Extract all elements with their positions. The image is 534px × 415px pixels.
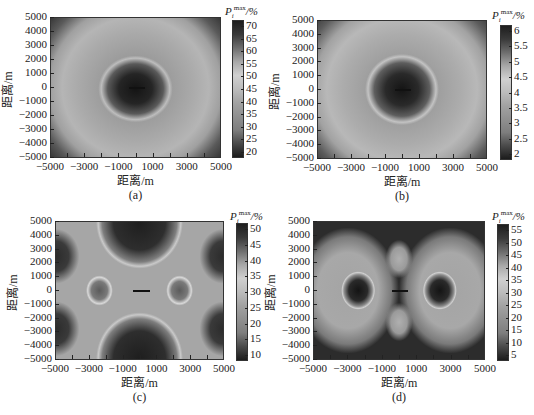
cb-sub: i bbox=[499, 16, 501, 24]
y-tick-mark bbox=[317, 75, 321, 76]
colorbar-tick-label: 60 bbox=[246, 45, 257, 56]
colorbar-tick-mark bbox=[509, 46, 512, 47]
y-axis-label: 距离/m bbox=[269, 73, 281, 110]
colorbar-tick-label: 30 bbox=[246, 121, 257, 132]
x-tick-mark bbox=[419, 154, 420, 158]
colorbar-tick-mark bbox=[506, 243, 509, 244]
colorbar-tick-label: 15 bbox=[511, 324, 522, 335]
colorbar-tick-label: 30 bbox=[511, 287, 522, 298]
colorbar-tick-label: 20 bbox=[250, 318, 261, 329]
x-tick-mark bbox=[153, 153, 154, 157]
colorbar-tick-label: 45 bbox=[250, 239, 261, 250]
colorbar-tick-mark bbox=[506, 318, 509, 319]
colorbar-tick-label: 5.5 bbox=[514, 40, 528, 51]
x-tick-mark bbox=[451, 355, 452, 359]
y-tick-mark bbox=[313, 235, 317, 236]
x-tick-mark bbox=[347, 355, 348, 359]
colorbar-tick-label: 50 bbox=[246, 70, 257, 81]
x-tick-mark bbox=[204, 153, 205, 157]
colorbar-tick-label: 3 bbox=[514, 117, 520, 128]
colorbar-tick-mark bbox=[241, 39, 244, 40]
y-tick-mark bbox=[317, 117, 321, 118]
x-tick-mark bbox=[89, 355, 90, 359]
x-tick-mark bbox=[436, 154, 437, 158]
y-tick-label: −3000 bbox=[8, 325, 52, 336]
y-tick-mark bbox=[50, 115, 54, 116]
y-tick-mark bbox=[317, 144, 321, 145]
colorbar-tick-label: 55 bbox=[511, 224, 522, 235]
x-tick-mark bbox=[72, 355, 73, 359]
colorbar-tick-label: 65 bbox=[246, 33, 257, 44]
x-tick-mark bbox=[402, 154, 403, 158]
colorbar-tick-label: 2 bbox=[514, 148, 520, 159]
y-tick-mark bbox=[55, 304, 59, 305]
y-tick-mark bbox=[50, 45, 54, 46]
colorbar-tick-mark bbox=[245, 324, 248, 325]
y-tick-mark bbox=[317, 89, 321, 90]
y-tick-mark bbox=[50, 129, 54, 130]
x-tick-mark bbox=[334, 154, 335, 158]
colorbar-tick-mark bbox=[506, 330, 509, 331]
colorbar-tick-label: 10 bbox=[511, 337, 522, 348]
x-tick-label: 5000 bbox=[465, 162, 509, 173]
x-tick-mark bbox=[140, 355, 141, 359]
y-tick-mark bbox=[50, 73, 54, 74]
y-tick-label: 5000 bbox=[8, 215, 52, 226]
source-marker bbox=[392, 290, 408, 292]
colorbar-tick-mark bbox=[506, 230, 509, 231]
cb-symbol: P bbox=[492, 210, 499, 222]
y-tick-mark bbox=[50, 101, 54, 102]
colorbar-tick-label: 40 bbox=[511, 262, 522, 273]
x-tick-mark bbox=[156, 355, 157, 359]
y-tick-mark bbox=[317, 20, 321, 21]
colorbar-tick-label: 45 bbox=[511, 249, 522, 260]
y-tick-label: 3000 bbox=[8, 243, 52, 254]
y-tick-mark bbox=[317, 48, 321, 49]
colorbar-tick-label: 25 bbox=[250, 302, 261, 313]
source-marker bbox=[129, 87, 145, 89]
y-tick-label: −3000 bbox=[266, 325, 310, 336]
x-tick-mark bbox=[84, 153, 85, 157]
y-tick-label: 2000 bbox=[8, 256, 52, 267]
y-tick-mark bbox=[55, 290, 59, 291]
y-tick-label: −2000 bbox=[270, 111, 314, 122]
colorbar-tick-label: 4 bbox=[514, 87, 520, 98]
cb-sup: max bbox=[239, 209, 251, 217]
y-tick-mark bbox=[55, 262, 59, 263]
y-tick-label: 4000 bbox=[3, 25, 47, 36]
cb-sub: i bbox=[232, 12, 234, 20]
y-tick-label: 3000 bbox=[3, 39, 47, 50]
x-tick-mark bbox=[67, 153, 68, 157]
y-tick-label: 2000 bbox=[270, 55, 314, 66]
y-tick-label: −2000 bbox=[3, 109, 47, 120]
colorbar-tick-mark bbox=[241, 139, 244, 140]
y-axis-label: 距离/m bbox=[7, 274, 19, 311]
colorbar-tick-mark bbox=[245, 245, 248, 246]
colorbar-tick-label: 20 bbox=[511, 312, 522, 323]
colorbar-tick-mark bbox=[245, 276, 248, 277]
y-tick-label: 2000 bbox=[266, 256, 310, 267]
colorbar-tick-mark bbox=[506, 355, 509, 356]
x-tick-label: 5000 bbox=[199, 161, 243, 172]
colorbar-tick-mark bbox=[506, 305, 509, 306]
heatmap-c bbox=[55, 221, 224, 360]
subfigure-label: (b) bbox=[342, 190, 462, 202]
subfigure-label: (c) bbox=[80, 391, 200, 403]
y-tick-mark bbox=[50, 31, 54, 32]
source-arrow bbox=[133, 290, 150, 292]
x-tick-mark bbox=[433, 355, 434, 359]
y-tick-mark bbox=[50, 87, 54, 88]
x-tick-mark bbox=[416, 355, 417, 359]
x-tick-mark bbox=[399, 355, 400, 359]
cb-symbol: P bbox=[225, 5, 232, 17]
colorbar-tick-mark bbox=[245, 355, 248, 356]
colorbar-tick-label: 20 bbox=[246, 146, 257, 157]
x-tick-mark bbox=[173, 355, 174, 359]
y-tick-label: −4000 bbox=[270, 138, 314, 149]
colorbar-tick-mark bbox=[241, 26, 244, 27]
y-axis-label: 距离/m bbox=[2, 71, 14, 108]
x-tick-mark bbox=[365, 355, 366, 359]
y-tick-mark bbox=[313, 359, 317, 360]
colorbar-tick-mark bbox=[241, 89, 244, 90]
y-tick-label: 3000 bbox=[266, 243, 310, 254]
